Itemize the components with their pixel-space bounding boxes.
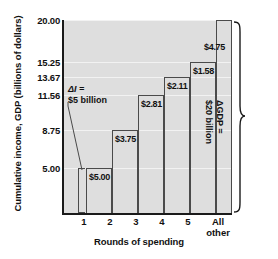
delta-gdp-annotation: ΔGDP = $20 billion (203, 100, 225, 220)
y-tick-20-00: 20.00 (14, 15, 60, 26)
delta-gdp-bracket (232, 18, 246, 215)
y-axis-tick-labels: 20.00 15.25 13.67 11.56 8.75 5.00 (12, 0, 60, 259)
y-tick-5-00: 5.00 (14, 163, 60, 174)
y-tick-11-56: 11.56 (14, 90, 60, 101)
delta-i-line1: ΔI = (68, 84, 84, 94)
delta-gdp-line1: ΔGDP = (214, 100, 225, 220)
multiplier-staircase-chart: Cumulative income, GDP (billions of doll… (0, 0, 278, 259)
y-tick-8-75: 8.75 (14, 125, 60, 136)
x-tick-4: 4 (149, 216, 175, 227)
x-tick-all-other: All other (201, 216, 235, 238)
x-tick-all-other-label: All (212, 216, 224, 227)
x-tick-2-label: 2 (107, 216, 112, 227)
x-tick-1: 1 (71, 216, 97, 227)
delta-gdp-line2: $20 billion (203, 100, 214, 220)
x-axis-title: Rounds of spending (0, 236, 278, 247)
y-tick-15-25: 15.25 (14, 57, 60, 68)
x-tick-5-label: 5 (185, 216, 190, 227)
x-tick-4-label: 4 (159, 216, 164, 227)
delta-i-line2: $5 billion (68, 95, 107, 106)
x-tick-2: 2 (97, 216, 123, 227)
x-tick-3: 3 (123, 216, 149, 227)
y-tick-13-67: 13.67 (14, 72, 60, 83)
x-tick-1-label: 1 (81, 216, 86, 227)
x-tick-5: 5 (175, 216, 201, 227)
delta-i-annotation: ΔI = $5 billion (68, 84, 107, 106)
x-tick-3-label: 3 (133, 216, 138, 227)
